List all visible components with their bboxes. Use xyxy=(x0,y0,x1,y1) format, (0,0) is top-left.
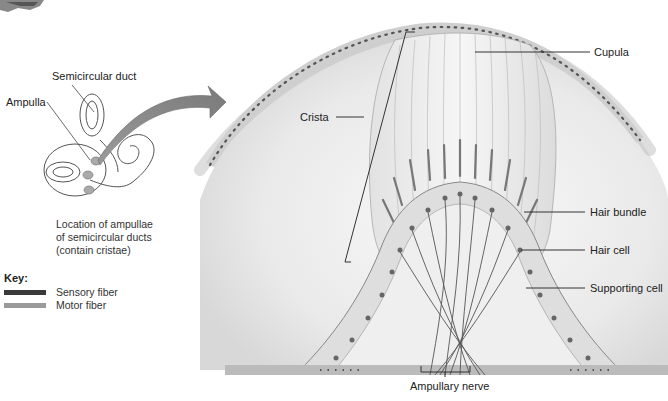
key-title: Key: xyxy=(4,272,28,284)
caption-line: (contain cristae) xyxy=(56,244,153,257)
caption-line: Location of ampullae xyxy=(56,218,153,231)
label-supporting-cell: Supporting cell xyxy=(590,282,663,295)
key-label: Motor fiber xyxy=(56,299,106,311)
corner-fragment xyxy=(0,0,44,12)
label-hair-cell: Hair cell xyxy=(590,244,630,257)
label-hair-bundle: Hair bundle xyxy=(590,206,646,219)
caption-line: of semicircular ducts xyxy=(56,231,153,244)
motor-fiber-swatch xyxy=(4,303,46,308)
label-cupula: Cupula xyxy=(594,46,629,59)
sensory-fiber-swatch xyxy=(4,290,46,295)
key-item-motor: Motor fiber xyxy=(4,299,106,311)
inset-caption: Location of ampullae of semicircular duc… xyxy=(56,218,153,257)
label-ampullary-nerve: Ampullary nerve xyxy=(410,380,489,393)
label-crista: Crista xyxy=(300,111,329,124)
inner-ear-sketch xyxy=(44,94,154,196)
label-ampulla: Ampulla xyxy=(6,96,46,109)
key-item-sensory: Sensory fiber xyxy=(4,286,118,298)
crista-illustration xyxy=(0,0,668,401)
ampulla-dots xyxy=(83,157,101,194)
label-semicircular-duct: Semicircular duct xyxy=(52,70,136,83)
key-label: Sensory fiber xyxy=(56,286,118,298)
